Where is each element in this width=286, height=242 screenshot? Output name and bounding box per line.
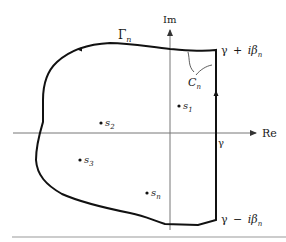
svg-text:s1: s1 xyxy=(183,100,193,114)
real-axis-label: Re xyxy=(262,127,277,140)
c-n-callout: Cn xyxy=(188,52,212,91)
c-n-label: Cn xyxy=(188,76,201,91)
point-sn: sn xyxy=(145,187,161,201)
top-endpoint-label: γ + iβn xyxy=(221,44,263,59)
gamma-n-label: Γn xyxy=(118,28,131,44)
gamma-axis-label: γ xyxy=(218,137,224,148)
svg-text:sn: sn xyxy=(151,187,161,201)
real-axis: Re xyxy=(13,127,277,140)
contour-gamma-n xyxy=(36,43,216,225)
imaginary-axis-label: Im xyxy=(163,14,177,25)
point-s3: s3 xyxy=(78,154,94,168)
point-s1: s1 xyxy=(177,100,192,114)
svg-text:s2: s2 xyxy=(105,117,115,131)
direction-arrow-right xyxy=(214,90,219,96)
point-s2: s2 xyxy=(99,117,115,131)
svg-text:s3: s3 xyxy=(84,154,94,168)
imaginary-axis: Im xyxy=(163,14,177,230)
bottom-endpoint-label: γ − iβn xyxy=(221,213,263,228)
contour-diagram: Re Im Γn Cn γ + iβn γ γ − iβn s1 xyxy=(0,0,286,242)
